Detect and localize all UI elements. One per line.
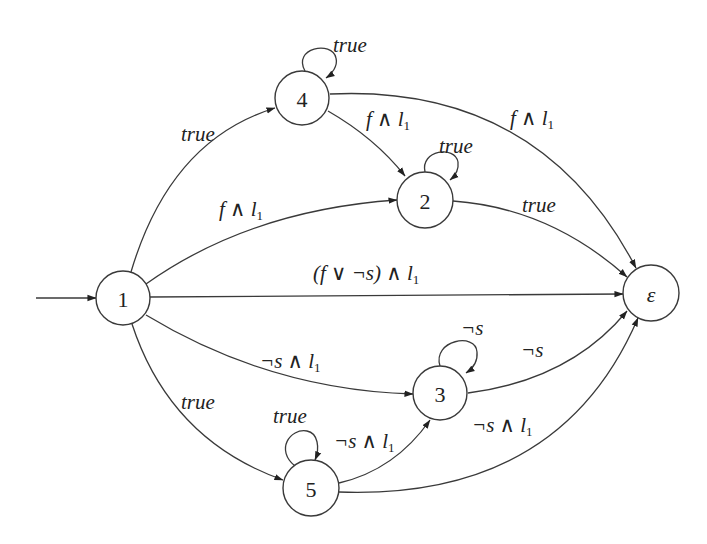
label-1-to-2: f ∧ l1 bbox=[219, 197, 263, 223]
state-5-label: 5 bbox=[306, 477, 317, 502]
label-3-to-eps: ¬s bbox=[521, 338, 543, 362]
label-1-to-5: true bbox=[181, 390, 215, 414]
label-5-self-loop: true bbox=[273, 404, 307, 428]
label-4-to-eps-subscript: 1 bbox=[548, 117, 555, 132]
state-4: 4 bbox=[275, 71, 329, 125]
label-1-to-2-subscript: 1 bbox=[257, 208, 264, 223]
state-2-label: 2 bbox=[420, 189, 431, 214]
edge-labels: true true f ∧ l1 f ∧ l1 f ∧ l1 true true… bbox=[181, 33, 556, 455]
state-1: 1 bbox=[96, 271, 150, 325]
label-1-to-eps-main: (f ∨ ¬s) ∧ l bbox=[313, 261, 413, 285]
label-5-to-3-subscript: 1 bbox=[388, 440, 395, 455]
automaton-diagram: 1 4 2 ε 3 5 true true f ∧ l1 f ∧ l1 f ∧ … bbox=[0, 0, 707, 544]
label-1-to-eps-subscript: 1 bbox=[413, 272, 420, 287]
label-1-to-3: ¬s ∧ l1 bbox=[260, 349, 321, 375]
label-2-to-eps: true bbox=[522, 193, 556, 217]
state-2: 2 bbox=[397, 172, 453, 228]
label-2-self-loop: true bbox=[439, 134, 473, 158]
label-1-to-4: true bbox=[181, 122, 215, 146]
state-3: 3 bbox=[413, 366, 467, 420]
label-1-to-3-subscript: 1 bbox=[314, 360, 321, 375]
state-epsilon: ε bbox=[623, 265, 679, 321]
state-1-label: 1 bbox=[118, 287, 129, 312]
label-3-self-loop: ¬s bbox=[461, 316, 483, 340]
label-4-to-2-subscript: 1 bbox=[404, 118, 411, 133]
label-4-to-eps-main: f ∧ l bbox=[510, 106, 548, 130]
label-1-to-eps: (f ∨ ¬s) ∧ l1 bbox=[313, 261, 419, 287]
state-5: 5 bbox=[283, 460, 339, 516]
label-4-to-2: f ∧ l1 bbox=[366, 107, 410, 133]
edge-1-to-eps bbox=[150, 294, 623, 297]
label-5-to-3-main: ¬s ∧ l bbox=[334, 429, 388, 453]
label-1-to-3-main: ¬s ∧ l bbox=[260, 349, 314, 373]
state-epsilon-label: ε bbox=[647, 282, 656, 307]
label-4-self-loop: true bbox=[333, 33, 367, 57]
state-3-label: 3 bbox=[435, 382, 446, 407]
label-5-to-3: ¬s ∧ l1 bbox=[334, 429, 395, 455]
state-4-label: 4 bbox=[297, 87, 308, 112]
label-4-to-eps: f ∧ l1 bbox=[510, 106, 554, 132]
label-5-to-eps: ¬s ∧ l1 bbox=[472, 413, 533, 439]
label-5-to-eps-main: ¬s ∧ l bbox=[472, 413, 526, 437]
label-4-to-2-main: f ∧ l bbox=[366, 107, 404, 131]
label-1-to-2-main: f ∧ l bbox=[219, 197, 257, 221]
label-5-to-eps-subscript: 1 bbox=[526, 424, 533, 439]
